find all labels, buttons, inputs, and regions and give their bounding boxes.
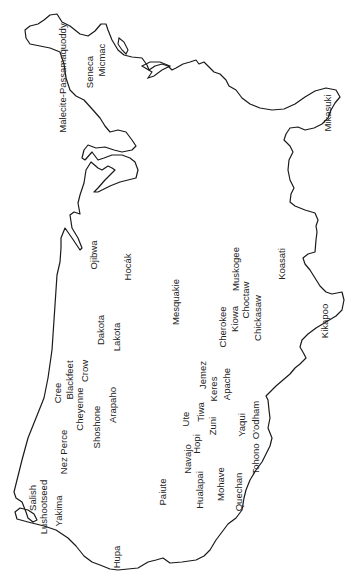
tribe-label-navajo: Navajo [182, 444, 193, 474]
tribe-label-lakota: Lakota [111, 322, 122, 351]
tribe-label-malecite-passamaquoddy: Malecite-Passamaquoddy [57, 23, 68, 133]
tribe-label-dakota: Dakota [95, 314, 106, 345]
tribe-label-keres: Keres [208, 376, 219, 401]
tribe-label-quechan: Quechan [233, 473, 244, 512]
tribe-label-nez-perce: Nez Perce [58, 430, 69, 474]
tribe-label-hocak: Hocák [122, 253, 133, 280]
tribe-label-kiowa: Kiowa [229, 305, 240, 332]
tribe-label-zuni: Zuni [207, 417, 218, 435]
tribe-label-ojibwa: Ojibwa [88, 240, 99, 270]
tribe-label-jemez: Jemez [197, 361, 208, 389]
tribe-labels: Malecite-PassamaquoddySenecaMicmacMikasu… [27, 23, 333, 568]
tribe-label-koasati: Koasati [276, 248, 287, 280]
tribe-label-cheyenne: Cheyenne [74, 387, 85, 430]
tribe-label-mesquakie: Mesquakie [170, 279, 181, 325]
tribe-label-tiwa: Tiwa [195, 401, 206, 421]
tribe-label-tohono: Tohono [250, 443, 261, 474]
tribe-label-yaqui: Yaqui [236, 413, 247, 437]
tribe-label-apache: Apache [221, 368, 232, 400]
tribe-label-oodham: O'odham [250, 401, 261, 439]
tribe-label-hupa: Hupa [111, 545, 122, 568]
tribe-label-yakima: Yakima [53, 495, 64, 527]
tribe-label-hualapai: Hualapai [194, 471, 205, 509]
tribe-label-arapaho: Arapaho [107, 387, 118, 423]
tribe-label-chickasaw: Chickasaw [252, 295, 263, 341]
tribe-label-cree: Cree [52, 383, 63, 404]
tribe-label-mohave: Mohave [215, 467, 226, 501]
tribe-label-mikasuki: Mikasuki [322, 95, 333, 132]
tribe-label-choctaw: Choctaw [240, 281, 251, 318]
us-tribes-map: Malecite-PassamaquoddySenecaMicmacMikasu… [0, 0, 362, 585]
tribe-label-crow: Crow [79, 360, 90, 382]
tribe-label-paiute: Paiute [157, 479, 168, 506]
tribe-label-seneca: Seneca [84, 55, 95, 88]
tribe-label-cherokee: Cherokee [217, 306, 228, 347]
tribe-label-salish: Salish [27, 485, 38, 511]
lake-erie-outline [142, 62, 170, 78]
tribe-label-micmac: Micmac [96, 43, 107, 76]
tribe-label-shoshone: Shoshone [91, 406, 102, 449]
tribe-label-lushootseed: Lushootseed [38, 480, 49, 534]
tribe-label-ute: Ute [180, 412, 191, 427]
tribe-label-kikapoo: Kikapoo [319, 304, 330, 338]
